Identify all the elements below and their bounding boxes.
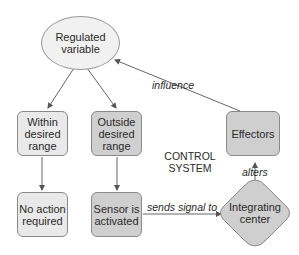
control-system-diagram: Regulated variable Within desired range …	[0, 0, 299, 255]
integrating-center-node: Integrating center	[225, 195, 285, 231]
sends-signal-edge-label: sends signal to	[147, 201, 217, 213]
regulated-variable-node: Regulated variable	[41, 16, 120, 70]
within-range-label: Within desired range	[18, 116, 67, 152]
within-range-node: Within desired range	[17, 111, 68, 156]
integrating-center-label: Integrating center	[225, 201, 285, 225]
sensor-activated-node: Sensor is activated	[91, 192, 142, 237]
outside-range-node: Outside desired range	[91, 111, 142, 156]
no-action-node: No action required	[17, 192, 68, 237]
control-system-caption: CONTROL SYSTEM	[158, 150, 222, 174]
sensor-activated-label: Sensor is activated	[92, 203, 141, 227]
regulated-variable-label: Regulated variable	[42, 31, 119, 55]
outside-range-label: Outside desired range	[92, 116, 141, 152]
influence-edge-label: influence	[152, 79, 194, 91]
alters-edge-label: alters	[242, 166, 268, 178]
effectors-label: Effectors	[231, 128, 274, 140]
no-action-label: No action required	[18, 203, 67, 227]
caption-line-2: SYSTEM	[158, 162, 222, 174]
caption-line-1: CONTROL	[158, 150, 222, 162]
effectors-node: Effectors	[226, 111, 280, 156]
